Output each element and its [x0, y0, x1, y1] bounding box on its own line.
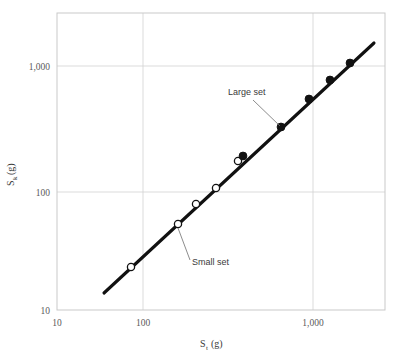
y-tick-label-10: 10 — [41, 306, 51, 316]
annotation-large-set-label: Large set — [228, 87, 266, 97]
y-axis-title-base: S — [5, 180, 16, 186]
data-point-filled — [239, 152, 247, 160]
y-tick-label-100: 100 — [36, 188, 51, 198]
x-axis-title-subscript: t — [206, 344, 208, 352]
x-tick-label-100: 100 — [136, 318, 151, 328]
data-point-filled — [326, 76, 334, 84]
y-axis-title-unit: (g) — [5, 163, 17, 175]
x-tick-label-1000: 1,000 — [302, 318, 324, 328]
x-tick-labels: 10 100 1,000 — [52, 318, 324, 328]
y-axis-title: S k (g) — [5, 163, 19, 186]
data-point-open — [127, 263, 134, 270]
annotation-small-set-label: Small set — [192, 257, 230, 267]
data-point-open — [174, 220, 181, 227]
y-tick-labels: 1,000 100 10 — [29, 62, 51, 316]
y-axis-title-subscript: k — [11, 176, 19, 180]
data-point-filled — [346, 59, 354, 67]
x-axis-title-base: S — [200, 338, 206, 349]
x-axis-title: S t (g) — [200, 338, 223, 352]
chart-svg: Large set Small set 1,000 100 10 10 100 … — [0, 0, 410, 357]
x-tick-label-10: 10 — [52, 318, 62, 328]
chart-figure: Large set Small set 1,000 100 10 10 100 … — [0, 0, 410, 357]
x-axis-title-unit: (g) — [211, 338, 223, 350]
data-point-filled — [305, 95, 313, 103]
data-point-open — [192, 200, 199, 207]
data-point-open — [212, 184, 219, 191]
y-tick-label-1000: 1,000 — [29, 62, 51, 72]
